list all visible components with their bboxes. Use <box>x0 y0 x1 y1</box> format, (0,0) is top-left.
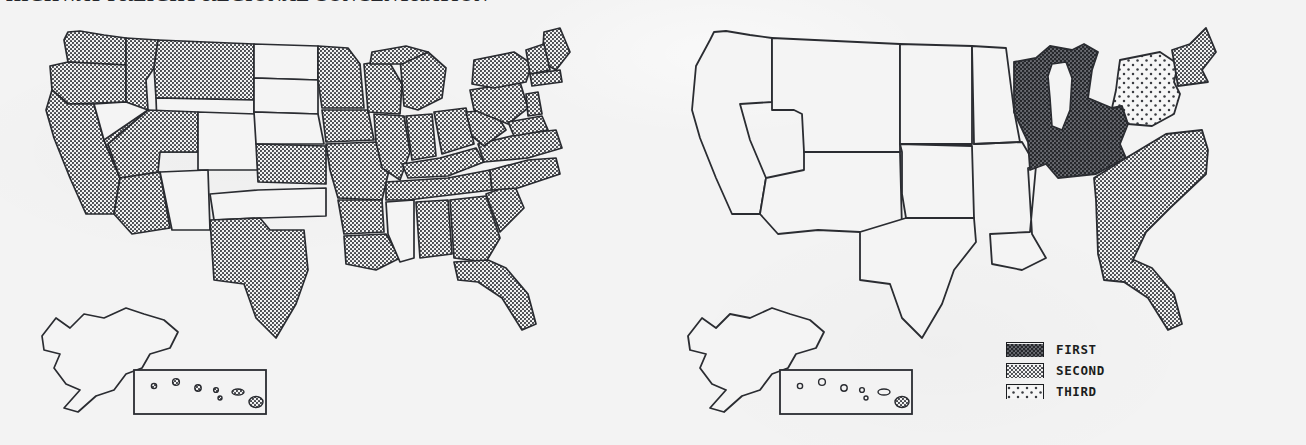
hawaii-lanai <box>214 388 219 393</box>
hawaii-lanai <box>860 388 865 393</box>
map-ranked-regions: FIRST SECOND THIRD <box>654 18 1294 430</box>
hawaii-molokai <box>195 385 201 391</box>
legend-swatch-second <box>1006 363 1044 378</box>
legend-swatch-third-fill <box>1007 386 1043 399</box>
state-kansas <box>256 144 326 184</box>
region-first-east-north-central <box>1014 44 1128 178</box>
hawaii-kahoolawe <box>218 396 222 400</box>
state-alabama <box>416 200 452 258</box>
hawaii-big-island <box>895 397 909 408</box>
state-iowa <box>322 110 374 142</box>
concentration-rank-legend: FIRST SECOND THIRD <box>1006 340 1156 403</box>
legend-item-second: SECOND <box>1006 361 1156 380</box>
hawaii-kauai <box>151 383 156 388</box>
state-minnesota <box>318 46 364 108</box>
region-pacific <box>692 31 772 214</box>
region-plains-north <box>900 44 972 144</box>
state-washington <box>64 31 126 65</box>
state-colorado <box>198 112 258 170</box>
inset-hawaii <box>780 370 912 414</box>
region-plains-south <box>900 144 974 218</box>
state-north-dakota <box>254 44 318 80</box>
state-florida <box>454 260 536 330</box>
region-upper-plains-east <box>972 46 1020 144</box>
map-ranked-regions-svg <box>654 18 1294 430</box>
state-indiana <box>406 114 436 160</box>
hawaii-maui <box>232 389 244 395</box>
state-new-jersey <box>526 92 542 116</box>
state-montana <box>154 40 254 100</box>
legend-label-first: FIRST <box>1056 342 1097 357</box>
legend-label-third: THIRD <box>1056 384 1097 399</box>
state-south-dakota <box>254 78 318 114</box>
legend-item-first: FIRST <box>1006 340 1156 359</box>
hawaii-big-island <box>249 397 263 408</box>
figure-canvas: HIGHWAY FREIGHT REGIONAL CONCENTRATION <box>0 0 1306 445</box>
legend-swatch-first <box>1006 342 1044 357</box>
hawaii-kahoolawe <box>864 396 868 400</box>
figure-title: HIGHWAY FREIGHT REGIONAL CONCENTRATION <box>6 0 488 6</box>
map-all-regions-svg <box>8 18 648 430</box>
hawaii-oahu <box>819 379 826 386</box>
state-texas <box>210 218 308 338</box>
state-idaho <box>126 38 158 110</box>
hawaii-kauai <box>797 383 802 388</box>
state-new-york <box>472 52 532 88</box>
state-north-carolina <box>490 158 560 190</box>
map-all-regions <box>8 18 648 430</box>
inset-hawaii <box>134 370 266 414</box>
state-wisconsin <box>364 60 402 114</box>
region-second-new-england <box>1172 28 1216 86</box>
legend-swatch-first-fill <box>1007 344 1043 357</box>
legend-swatch-second-fill <box>1007 365 1043 378</box>
hawaii-oahu <box>173 379 180 386</box>
legend-label-second: SECOND <box>1056 363 1105 378</box>
hawaii-molokai <box>841 385 847 391</box>
state-arkansas <box>338 200 384 234</box>
legend-swatch-third <box>1006 384 1044 399</box>
region-texas <box>860 218 976 338</box>
region-mountain-north <box>772 38 900 152</box>
region-mountain-south <box>760 152 902 234</box>
state-nebraska <box>254 112 324 144</box>
legend-item-third: THIRD <box>1006 382 1156 401</box>
state-oklahoma <box>210 188 326 220</box>
hawaii-maui <box>878 389 890 395</box>
